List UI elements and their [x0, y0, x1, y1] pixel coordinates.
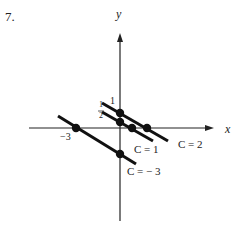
tick-label-y-one: 1 [110, 96, 115, 106]
dot-c2-x-intercept [143, 124, 151, 132]
tick-label-y-half-denominator: 2 [99, 112, 103, 120]
problem-number: 7. [5, 10, 15, 23]
y-axis-arrow-icon [117, 33, 123, 42]
tick-label-x-neg-three: −3 [60, 132, 71, 142]
x-axis-arrow-icon [205, 125, 214, 131]
line-c2 [102, 103, 168, 141]
dot-c1-y-intercept [116, 118, 124, 126]
dot-c1-x-intercept [128, 124, 136, 132]
level-curves-figure [0, 0, 244, 228]
x-axis-label: x [225, 123, 230, 135]
curve-label-c1: C = 1 [134, 144, 159, 155]
dot-cm3-y-intercept [116, 150, 124, 158]
dot-c2-y-intercept [116, 109, 124, 117]
tick-label-y-half-numerator: 1 [99, 101, 103, 109]
curve-label-c2: C = 2 [178, 139, 203, 150]
dot-cm3-x-intercept [72, 124, 80, 132]
y-axis-label: y [116, 8, 121, 20]
curve-label-cm3: C = − 3 [127, 166, 161, 177]
